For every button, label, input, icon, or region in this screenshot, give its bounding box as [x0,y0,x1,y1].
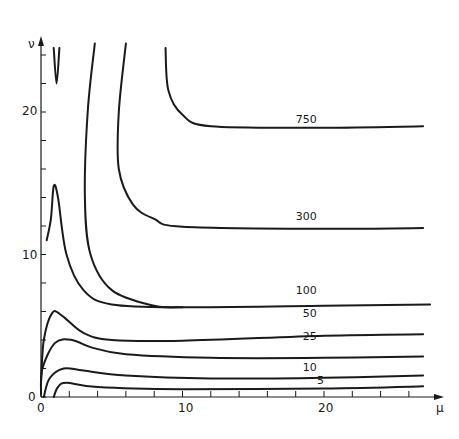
contour-labels: 5102550100300750 [296,113,324,387]
x-tick-label-20: 20 [318,401,333,415]
contour-line-100 [47,185,430,307]
contour-curves [41,44,430,397]
y-axis-label: ν [28,37,35,51]
contour-label-25: 25 [303,330,317,343]
contour-label-750: 750 [296,113,317,126]
contour-label-10: 10 [303,361,317,374]
x-tick-label-0: 0 [37,401,45,415]
contour-chart: ν μ 0 10 20 0 10 20 5102550100300750 [0,0,459,439]
y-axis-arrow-icon [38,36,44,46]
y-tick-label-0: 0 [28,390,36,404]
contour-line-v-fragment [54,48,60,84]
contour-line-750 [166,48,424,128]
x-axis-label: μ [436,401,444,415]
contour-line-300-plateau [117,44,423,229]
axes [38,36,444,400]
contour-line-5 [54,383,423,397]
contour-line-25 [41,339,423,394]
contour-label-100: 100 [296,284,317,297]
x-tick-label-10: 10 [178,401,193,415]
contour-line-10 [44,368,423,397]
x-axis-arrow-icon [434,394,444,400]
contour-label-5: 5 [317,374,324,387]
y-tick-label-20: 20 [22,104,37,118]
x-ticks [41,391,409,397]
y-tick-label-10: 10 [22,248,37,262]
contour-label-50: 50 [303,307,317,320]
contour-label-300: 300 [296,210,317,223]
